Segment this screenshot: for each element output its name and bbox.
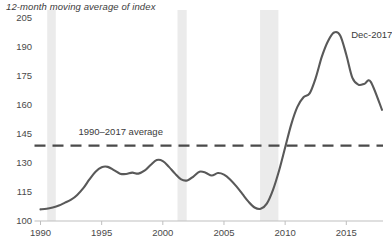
y-axis-tick-label: 145 [6, 128, 32, 139]
x-axis-tick-label: 2015 [329, 227, 363, 238]
recession-band [47, 10, 56, 221]
chart-annotation: Dec-2017 [351, 29, 392, 40]
series-line [41, 32, 383, 209]
x-axis-tick-label: 2010 [268, 227, 302, 238]
x-axis-tick-label: 1990 [24, 227, 58, 238]
x-axis-tick-label: 2005 [207, 227, 241, 238]
y-axis-tick-label: 115 [6, 186, 32, 197]
y-axis-tick-label: 100 [6, 215, 32, 226]
y-axis-tick-label: 190 [6, 41, 32, 52]
recession-band [178, 10, 187, 221]
y-axis-tick-label: 130 [6, 157, 32, 168]
data-series-group [41, 32, 383, 209]
axis-group [35, 221, 384, 225]
y-axis-tick-label: 160 [6, 99, 32, 110]
chart-annotation: 1990–2017 average [78, 126, 163, 137]
recession-band [260, 10, 278, 221]
x-axis-tick-label: 1995 [85, 227, 119, 238]
y-axis-tick-label: 175 [6, 70, 32, 81]
x-axis-tick-label: 2000 [146, 227, 180, 238]
y-axis-tick-label: 205 [6, 12, 32, 23]
